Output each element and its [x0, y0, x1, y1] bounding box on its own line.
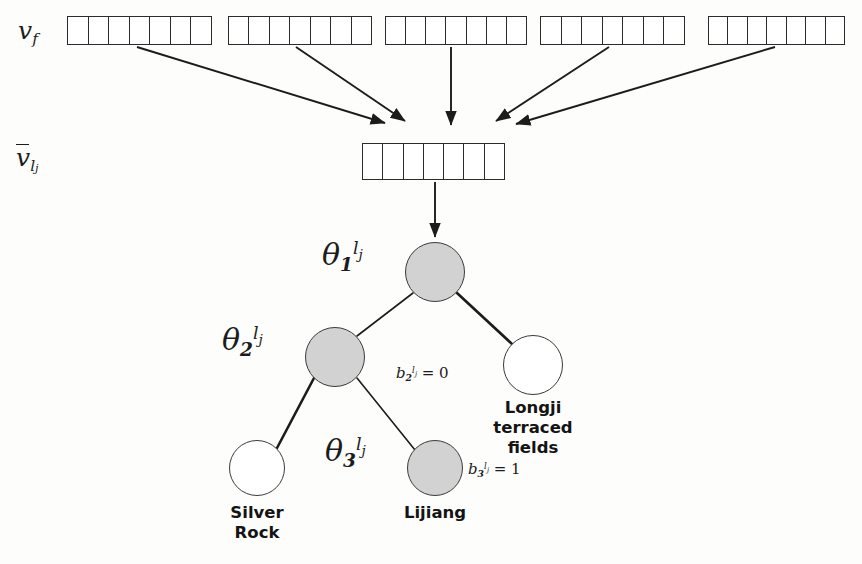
node-root-theta1[interactable]	[405, 242, 465, 302]
aggregate-vector-cell	[444, 144, 464, 179]
edge-root-to-theta2	[357, 293, 413, 336]
arrow-from-vector-4	[496, 47, 609, 121]
node-theta2[interactable]	[305, 327, 365, 387]
vector-cell	[787, 17, 806, 44]
vector-cell	[826, 17, 844, 44]
vector-cell	[664, 17, 684, 44]
vector-cell	[109, 17, 130, 44]
vector-cell	[541, 17, 562, 44]
vector-cell	[130, 17, 151, 44]
vector-cell	[767, 17, 786, 44]
theta-subscript: 2	[240, 339, 253, 360]
vector-cell	[446, 17, 466, 44]
vector-cell	[728, 17, 747, 44]
b-value: = 1	[489, 460, 521, 478]
edge-theta2-to-silver-rock	[277, 378, 314, 448]
vector-cell	[603, 17, 624, 44]
vector-cell	[290, 17, 310, 44]
vf-label: vf	[18, 18, 38, 47]
vf-vector-5	[708, 16, 845, 45]
b-value: = 0	[417, 364, 449, 382]
theta-superscript-j: j	[362, 442, 366, 458]
vector-cell	[709, 17, 728, 44]
vector-cell	[89, 17, 110, 44]
vector-cell	[331, 17, 351, 44]
node-root-theta1-theta-label: θ1lj	[322, 240, 363, 275]
vector-cell	[150, 17, 171, 44]
aggregate-vector-cell	[464, 144, 484, 179]
vector-cell	[562, 17, 583, 44]
vector-cell	[406, 17, 426, 44]
vector-cell	[582, 17, 603, 44]
vector-cell	[191, 17, 211, 44]
branch-label-b2: b2lj = 0	[396, 366, 449, 383]
theta-base: θ	[325, 433, 343, 468]
aggregate-vector-cell	[363, 144, 383, 179]
vf-vector-4	[540, 16, 685, 45]
b-base: b	[468, 460, 478, 478]
arrow-group	[137, 47, 775, 237]
v-bar-label-subscript-j: j	[35, 162, 39, 175]
node-lijiang-theta3[interactable]	[407, 440, 463, 496]
aggregate-vector	[362, 143, 505, 180]
aggregate-vector-cell	[424, 144, 444, 179]
vector-cell	[386, 17, 406, 44]
arrow-from-vector-2	[296, 47, 405, 121]
arrow-from-vector-1	[137, 47, 385, 123]
b-base: b	[396, 364, 406, 382]
vector-cell	[249, 17, 269, 44]
theta-subscript: 1	[340, 254, 353, 275]
edge-root-to-longji	[457, 293, 512, 344]
vector-cell	[68, 17, 89, 44]
aggregate-vector-cell	[404, 144, 424, 179]
theta-base: θ	[222, 322, 240, 357]
leaf-label-silver-rock: Silver Rock	[197, 503, 317, 543]
node-lijiang-theta3-theta-label: θ3lj	[325, 436, 366, 471]
leaf-label-longji: Longji terraced fields	[473, 398, 593, 458]
vf-label-base: v	[18, 16, 32, 45]
branch-label-b3: b3lj = 1	[468, 462, 521, 479]
vector-cell	[229, 17, 249, 44]
vector-cell	[806, 17, 825, 44]
vector-cell	[487, 17, 507, 44]
aggregate-vector-cell	[485, 144, 504, 179]
vf-vector-1	[67, 16, 212, 45]
node-silver-rock[interactable]	[229, 440, 285, 496]
vector-cell	[311, 17, 331, 44]
node-theta2-theta-label: θ2lj	[222, 325, 263, 360]
leaf-label-lijiang: Lijiang	[375, 503, 495, 523]
aggregate-vector-cell	[383, 144, 403, 179]
theta-base: θ	[322, 237, 340, 272]
node-longji-terraced-fields[interactable]	[503, 335, 563, 395]
vf-label-subscript: f	[32, 30, 38, 48]
theta-superscript-j: j	[359, 246, 363, 262]
vector-cell	[352, 17, 371, 44]
theta-subscript: 3	[343, 450, 356, 471]
v-bar-label-base: v	[16, 145, 30, 170]
vector-cell	[644, 17, 665, 44]
vector-cell	[467, 17, 487, 44]
vector-cell	[270, 17, 290, 44]
vector-cell	[426, 17, 446, 44]
theta-superscript-j: j	[259, 331, 263, 347]
vector-cell	[748, 17, 767, 44]
vector-cell	[507, 17, 526, 44]
vf-vector-2	[228, 16, 372, 45]
vector-cell	[171, 17, 192, 44]
vector-cell	[623, 17, 644, 44]
vf-vector-3	[385, 16, 527, 45]
arrow-from-vector-5	[516, 47, 775, 124]
hierarchical-tree-diagram: vf vlj θ1ljθ2ljθ3lj b2lj = 0b3lj = 1 Lon…	[0, 0, 862, 564]
v-bar-lj-label: vlj	[16, 145, 39, 175]
